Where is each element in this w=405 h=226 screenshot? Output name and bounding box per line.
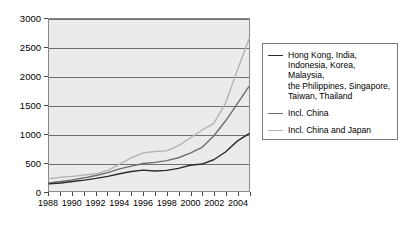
y-axis-tick-label: 0 [0, 187, 41, 198]
x-axis-tick-mark [226, 192, 227, 196]
y-axis-tick-mark [44, 163, 48, 164]
y-axis-tick-mark [44, 76, 48, 77]
x-axis-tick-label: 1994 [109, 198, 129, 208]
y-axis-tick-label: 1500 [0, 100, 41, 111]
x-axis-tick-mark [250, 192, 251, 196]
x-axis-tick-mark [179, 192, 180, 196]
x-axis-tick-mark [72, 192, 73, 196]
x-axis-tick-mark [191, 192, 192, 196]
series-line [49, 86, 249, 183]
y-axis-tick-mark [44, 105, 48, 106]
legend-item[interactable]: Hong Kong, India, Indonesia, Korea, Mala… [268, 50, 392, 101]
x-axis-tick-mark [143, 192, 144, 196]
x-axis-tick-mark [107, 192, 108, 196]
x-axis-tick-label: 1988 [38, 198, 58, 208]
legend-item[interactable]: Incl. China and Japan [268, 125, 392, 135]
y-axis-tick-label: 2500 [0, 42, 41, 53]
x-axis-tick-mark [48, 192, 49, 196]
x-axis-tick-mark [84, 192, 85, 196]
series-line [49, 134, 249, 184]
x-axis-tick-mark [96, 192, 97, 196]
y-axis-tick-mark [44, 134, 48, 135]
x-axis-tick-mark [214, 192, 215, 196]
y-axis-tick-label: 1000 [0, 129, 41, 140]
x-axis-tick-mark [119, 192, 120, 196]
series-lines-group [49, 19, 249, 191]
legend-item-label: Hong Kong, India, Indonesia, Korea, Mala… [288, 50, 392, 101]
x-axis-tick-label: 1992 [86, 198, 106, 208]
y-axis-tick-mark [44, 18, 48, 19]
legend-swatch-icon [268, 55, 283, 57]
legend-swatch-icon [268, 130, 283, 132]
legend: Hong Kong, India, Indonesia, Korea, Mala… [262, 43, 398, 140]
legend-item-label: Incl. China [288, 108, 329, 118]
x-axis-tick-label: 2004 [228, 198, 248, 208]
legend-swatch-icon [268, 113, 283, 115]
x-axis-tick-mark [167, 192, 168, 196]
legend-item-label: Incl. China and Japan [288, 125, 371, 135]
y-axis-tick-label: 2000 [0, 71, 41, 82]
x-axis-tick-mark [131, 192, 132, 196]
x-axis-tick-label: 1996 [133, 198, 153, 208]
x-axis-tick-mark [238, 192, 239, 196]
y-axis-tick-label: 3000 [0, 13, 41, 24]
x-axis-tick-label: 2000 [181, 198, 201, 208]
legend-item[interactable]: Incl. China [268, 108, 392, 118]
chart-container: 050010001500200025003000 198819901992199… [0, 0, 405, 226]
x-axis-tick-mark [60, 192, 61, 196]
y-axis-tick-mark [44, 47, 48, 48]
x-axis-tick-mark [155, 192, 156, 196]
series-line [49, 39, 249, 179]
x-axis-tick-label: 2002 [204, 198, 224, 208]
x-axis-tick-mark [202, 192, 203, 196]
x-axis-tick-label: 1998 [157, 198, 177, 208]
y-axis-tick-label: 500 [0, 158, 41, 169]
plot-area [48, 18, 250, 192]
x-axis-tick-label: 1990 [62, 198, 82, 208]
